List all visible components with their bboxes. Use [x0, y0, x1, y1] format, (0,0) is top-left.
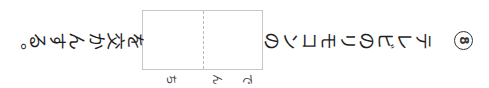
sentence-before-blank: テレビのリモコンの [262, 30, 433, 48]
question-number-badge: 8 [454, 31, 473, 50]
question-8-vertical-line: 8 テレビのリモコンの でん ち を交かんする。 [0, 0, 489, 88]
furigana-cell-1: でん [193, 73, 253, 84]
sentence-after-blank: を交かんする。 [8, 30, 145, 48]
worksheet-strip: 8 テレビのリモコンの でん ち を交かんする。 [0, 0, 489, 88]
furigana-cell-2: ち [166, 73, 177, 84]
answer-cell-2 [143, 11, 203, 69]
answer-box [142, 10, 263, 70]
answer-cell-1 [203, 11, 262, 69]
question-number: 8 [457, 36, 471, 44]
